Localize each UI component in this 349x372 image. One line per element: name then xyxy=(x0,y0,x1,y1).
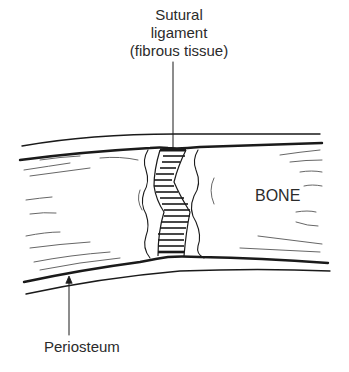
periosteum-arrow-icon xyxy=(66,276,72,283)
left-bone-edge xyxy=(142,150,150,258)
sutural-ligament-fibers xyxy=(154,150,190,256)
right-bone-edge xyxy=(191,150,204,258)
suture-diagram xyxy=(0,0,349,372)
